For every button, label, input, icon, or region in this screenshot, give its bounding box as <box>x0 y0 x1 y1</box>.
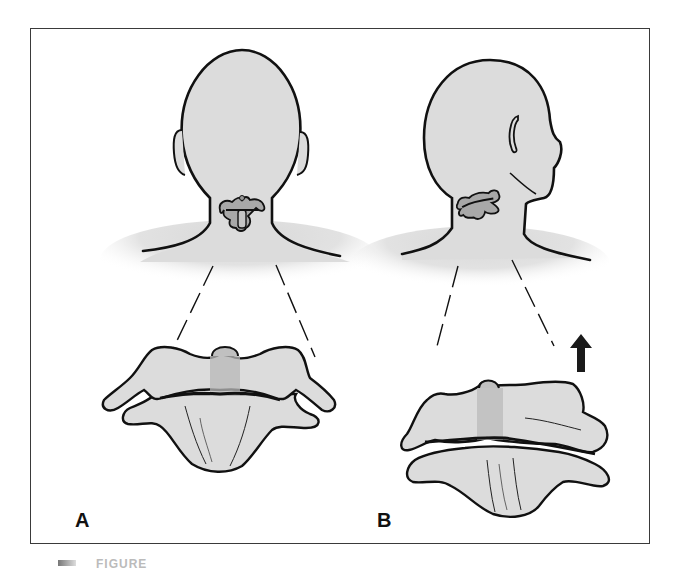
panel-label-b: B <box>377 509 391 532</box>
panel-a-illustration <box>30 28 340 544</box>
panel-a <box>30 28 340 544</box>
cervical-vertebra-a <box>103 347 335 472</box>
caption-bar-icon <box>58 560 76 566</box>
up-arrow-icon <box>570 334 592 372</box>
panel-label-a: A <box>75 509 89 532</box>
panel-b-illustration <box>340 28 650 544</box>
cervical-vertebra-b <box>401 381 609 517</box>
panel-b <box>340 28 650 544</box>
caption-text: FIGURE <box>96 558 147 570</box>
figure-caption: FIGURE <box>58 558 147 572</box>
